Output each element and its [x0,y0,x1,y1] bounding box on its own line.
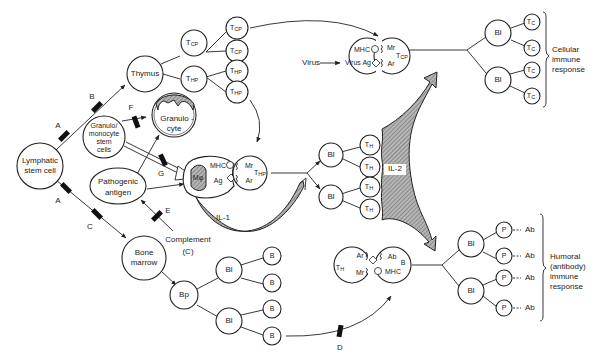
p-node-1: P [496,222,512,238]
svg-text:Bl: Bl [327,192,334,201]
svg-text:(antibody): (antibody) [550,262,586,271]
macrophage-label: Mφ [193,174,204,182]
svg-text:cells: cells [97,146,112,153]
p-node-2: P [496,248,512,264]
macrophage-thp-complex: Mφ MHC Ag Mr Ar THP [183,156,267,198]
cellular-brace [543,12,549,107]
svg-text:Ar: Ar [357,252,365,259]
humoral-response-label: Humoral (antibody) immune response [550,252,586,291]
tc-node-3: TC [524,62,540,78]
svg-text:Mr: Mr [387,44,396,51]
virus-label: Virus [302,58,320,67]
svg-text:monocyte: monocyte [89,130,119,138]
b-node-3: B [263,300,281,318]
svg-text:Bl: Bl [225,265,232,274]
svg-text:Bone: Bone [135,248,154,257]
svg-text:Bl: Bl [467,239,474,248]
svg-text:Bl: Bl [225,316,232,325]
tc-node-4: TC [524,88,540,104]
svg-text:Ab: Ab [525,225,535,234]
svg-text:MHC: MHC [385,268,401,275]
svg-text:G: G [158,169,164,178]
th-node-3: TH [360,177,380,197]
bl-node-b1: Bl [216,257,242,283]
thymus-label: Thymus [131,69,159,78]
svg-text:Bp: Bp [179,290,189,299]
svg-text:stem: stem [96,138,111,145]
th-node-1: TH [360,135,380,155]
svg-text:Bl: Bl [467,286,474,295]
bl-node-th1: Bl [319,143,343,167]
bone-marrow-node: Bone marrow [122,236,166,280]
blocker-d: D [336,325,343,352]
th-node-2: TH [360,157,380,177]
svg-text:Ar: Ar [388,60,396,67]
thp-node: THP [181,66,207,92]
svg-text:F: F [129,103,134,112]
svg-text:Ab: Ab [525,273,535,282]
b-node-4: B [263,327,281,345]
svg-text:Virus Ag: Virus Ag [345,59,371,67]
svg-text:Humoral: Humoral [550,252,580,261]
tcp-child-1: TCP [226,17,248,39]
p-node-4: P [496,300,512,316]
svg-text:Pathogenic: Pathogenic [98,177,138,186]
b-node-2: B [263,274,281,292]
granulocyte-node: Granulo - cyte [152,93,196,137]
svg-text:A: A [55,196,61,205]
virus-tcp-complex: MHC Virus Ag Mr Ar TCP [345,38,410,74]
blocker-b: B [89,92,103,113]
blocker-f: F [129,103,141,128]
blocker-c: C [87,208,103,231]
svg-text:immune: immune [552,55,581,64]
il2-label: IL-2 [388,164,402,173]
th-b-complex: TH Ar Mr Ab B MHC [334,247,411,283]
svg-text:D: D [337,343,343,352]
thp-child-2: THP [226,81,248,103]
svg-text:Ab: Ab [525,303,535,312]
svg-text:Mr: Mr [356,269,365,276]
il2-arrow-shape [381,72,437,251]
svg-text:marrow: marrow [131,258,158,267]
lymphatic-label: Lymphatic [22,156,58,165]
ab-labels: Ab Ab Ab Ab [513,225,535,312]
immune-response-diagram: Lymphatic stem cell Thymus TCP THP TCP T… [0,0,598,357]
svg-text:(C): (C) [182,247,193,256]
bl-node-b2: Bl [216,308,242,334]
tcp-child-2: TCP [226,40,248,62]
svg-text:response: response [552,65,585,74]
il1-label: IL-1 [216,213,230,222]
svg-text:Mr: Mr [245,162,254,169]
b-node-1: B [263,247,281,265]
bl-node-cellular-1: Bl [485,20,511,46]
svg-text:Granulo/: Granulo/ [91,122,118,129]
th-node-4: TH [360,199,380,219]
svg-text:Ab: Ab [388,253,397,260]
blocker-a-bottom: A [55,182,72,205]
svg-text:MHC: MHC [354,46,370,53]
svg-text:C: C [87,222,93,231]
svg-text:Granulo -: Granulo - [160,114,194,123]
svg-text:A: A [55,121,61,130]
complement-label: Complement (C) [165,235,211,256]
cellular-response-label: Cellular immune response [552,45,585,74]
tcp-node: TCP [181,30,207,56]
svg-text:B: B [270,279,275,286]
svg-text:E: E [165,206,170,215]
svg-text:immune: immune [550,272,579,281]
bl-node-cellular-2: Bl [485,67,511,93]
svg-text:B: B [89,92,94,101]
p-node-3: P [496,270,512,286]
svg-text:P: P [502,274,507,281]
svg-text:antigen: antigen [105,188,131,197]
lymphatic-stem-cell-node: Lymphatic stem cell [17,143,63,189]
svg-text:B: B [270,305,275,312]
svg-text:Ab: Ab [525,251,535,260]
tc-node-1: TC [524,14,540,30]
thp-child-1: THP [226,60,248,82]
bl-node-th2: Bl [319,185,343,209]
lymphatic-label-2: stem cell [24,166,56,175]
svg-text:P: P [502,252,507,259]
svg-text:P: P [502,226,507,233]
svg-text:cyte: cyte [167,124,182,133]
